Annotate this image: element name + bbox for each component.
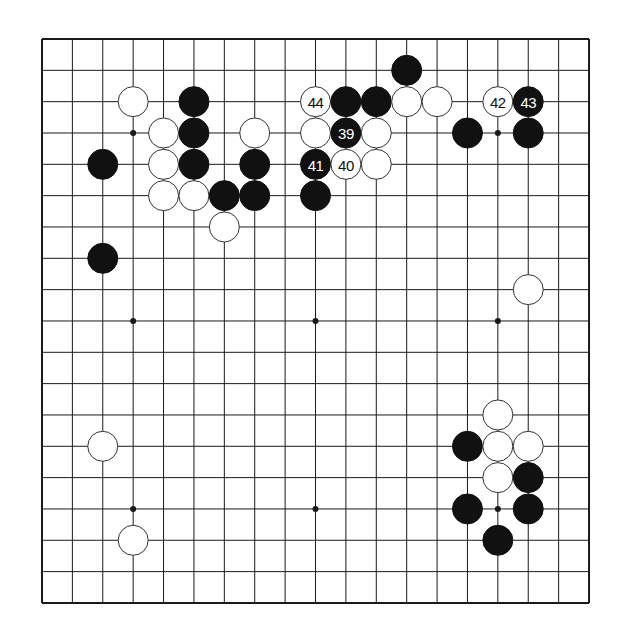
white-stone[interactable] — [301, 118, 331, 148]
white-stone[interactable]: 42 — [483, 87, 513, 117]
white-stone[interactable] — [118, 87, 148, 117]
black-stone[interactable]: 39 — [331, 118, 361, 148]
stone-circle — [331, 87, 361, 117]
stone-circle — [513, 463, 543, 493]
black-stone[interactable] — [331, 87, 361, 117]
star-point — [495, 130, 501, 136]
black-stone[interactable] — [209, 181, 239, 211]
star-point — [495, 506, 501, 512]
move-number-label: 41 — [308, 157, 324, 174]
white-stone[interactable]: 44 — [301, 87, 331, 117]
stone-circle — [88, 243, 118, 273]
black-stone[interactable] — [240, 149, 270, 179]
stone-circle — [513, 431, 543, 461]
white-stone[interactable] — [118, 525, 148, 555]
star-point — [313, 318, 319, 324]
stone-circle — [88, 149, 118, 179]
stone-circle — [149, 149, 179, 179]
stone-circle — [483, 431, 513, 461]
stone-circle — [361, 87, 391, 117]
stone-circle — [452, 494, 482, 524]
black-stone[interactable] — [392, 55, 422, 85]
black-stone[interactable] — [483, 525, 513, 555]
star-point — [130, 130, 136, 136]
black-stone[interactable] — [513, 118, 543, 148]
stone-circle — [483, 400, 513, 430]
stone-circle — [483, 525, 513, 555]
white-stone[interactable] — [209, 212, 239, 242]
stone-circle — [240, 118, 270, 148]
stone-circle — [513, 494, 543, 524]
stone-circle — [361, 149, 391, 179]
white-stone[interactable] — [149, 118, 179, 148]
stone-circle — [392, 55, 422, 85]
white-stone[interactable] — [240, 118, 270, 148]
stone-circle — [118, 87, 148, 117]
stone-circle — [513, 275, 543, 305]
stone-circle — [179, 181, 209, 211]
white-stone[interactable] — [392, 87, 422, 117]
black-stone[interactable]: 43 — [513, 87, 543, 117]
stone-circle — [209, 212, 239, 242]
star-point — [313, 506, 319, 512]
white-stone[interactable] — [483, 431, 513, 461]
stone-circle — [179, 87, 209, 117]
white-stone[interactable] — [149, 181, 179, 211]
black-stone[interactable] — [179, 149, 209, 179]
black-stone[interactable] — [513, 463, 543, 493]
black-stone[interactable] — [513, 494, 543, 524]
move-number-label: 39 — [338, 125, 354, 142]
black-stone[interactable] — [88, 243, 118, 273]
stone-circle — [88, 431, 118, 461]
black-stone[interactable] — [240, 181, 270, 211]
white-stone[interactable] — [483, 463, 513, 493]
black-stone[interactable]: 41 — [301, 149, 331, 179]
white-stone[interactable] — [361, 118, 391, 148]
white-stone[interactable] — [149, 149, 179, 179]
black-stone[interactable] — [301, 181, 331, 211]
move-number-label: 43 — [520, 94, 536, 111]
stone-circle — [483, 463, 513, 493]
star-point — [495, 318, 501, 324]
stone-circle — [452, 118, 482, 148]
white-stone[interactable] — [422, 87, 452, 117]
stone-circle — [422, 87, 452, 117]
white-stone[interactable] — [513, 275, 543, 305]
stone-circle — [149, 118, 179, 148]
stone-circle — [361, 118, 391, 148]
black-stone[interactable] — [361, 87, 391, 117]
stone-circle — [118, 525, 148, 555]
go-board[interactable]: 443941404243 — [0, 0, 632, 643]
white-stone[interactable]: 40 — [331, 149, 361, 179]
stone-circle — [149, 181, 179, 211]
stone-circle — [240, 149, 270, 179]
black-stone[interactable] — [88, 149, 118, 179]
white-stone[interactable] — [179, 181, 209, 211]
move-number-label: 44 — [308, 94, 324, 111]
white-stone[interactable] — [513, 431, 543, 461]
black-stone[interactable] — [179, 118, 209, 148]
move-number-label: 42 — [490, 94, 506, 111]
stone-circle — [392, 87, 422, 117]
white-stone[interactable] — [483, 400, 513, 430]
black-stone[interactable] — [179, 87, 209, 117]
white-stone[interactable] — [361, 149, 391, 179]
stone-circle — [301, 118, 331, 148]
stone-circle — [179, 149, 209, 179]
star-point — [130, 318, 136, 324]
move-number-label: 40 — [338, 157, 354, 174]
stone-circle — [179, 118, 209, 148]
stone-circle — [209, 181, 239, 211]
stone-circle — [301, 181, 331, 211]
star-point — [130, 506, 136, 512]
white-stone[interactable] — [88, 431, 118, 461]
black-stone[interactable] — [452, 431, 482, 461]
black-stone[interactable] — [452, 118, 482, 148]
stone-circle — [240, 181, 270, 211]
black-stone[interactable] — [452, 494, 482, 524]
stone-circle — [452, 431, 482, 461]
stone-circle — [513, 118, 543, 148]
